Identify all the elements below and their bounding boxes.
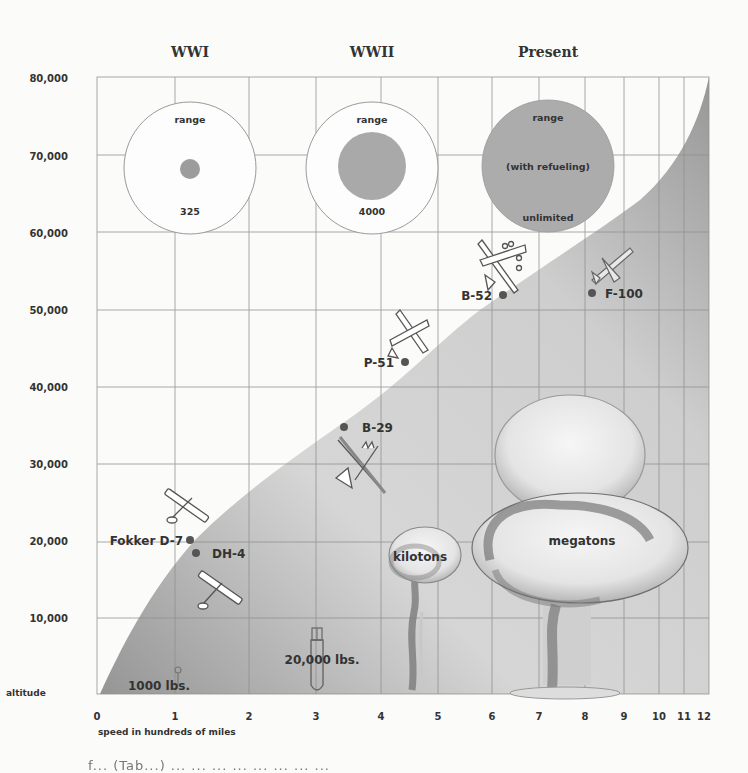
point-f100: [588, 289, 596, 297]
range-circle-present: range (with refueling) unlimited: [482, 100, 614, 232]
label-b52: B-52: [461, 289, 492, 303]
range-label-wwi: range: [174, 114, 205, 125]
point-fokker-d7: [186, 536, 194, 544]
kilotons-label: kilotons: [393, 550, 447, 564]
biplane-fokker-icon: [164, 488, 209, 523]
label-f100: F-100: [605, 287, 643, 301]
megatons-label: megatons: [549, 534, 616, 548]
point-p51: [401, 358, 409, 366]
bomb-1000-label: 1000 lbs.: [128, 679, 190, 693]
range-circle-wwii: range 4000: [306, 102, 438, 234]
range-value-wwii: 4000: [359, 206, 386, 217]
range-label-wwii: range: [356, 114, 387, 125]
point-b52: [499, 291, 507, 299]
range-label-present: range: [532, 112, 563, 123]
label-dh4: DH-4: [212, 547, 245, 561]
range-note-present: (with refueling): [506, 161, 590, 172]
fighter-p51-icon: [388, 310, 429, 358]
point-dh4: [192, 549, 200, 557]
label-b29: B-29: [362, 421, 393, 435]
bomb-20000-label: 20,000 lbs.: [285, 653, 360, 667]
label-p51: P-51: [364, 356, 394, 370]
label-fokker-d7: Fokker D-7: [110, 534, 183, 548]
range-dot-wwi: [180, 159, 200, 179]
range-value-present: unlimited: [523, 212, 574, 223]
point-b29: [340, 423, 348, 431]
range-value-wwi: 325: [180, 206, 200, 217]
figure-caption: f... (Tab...) ... ... ... ... ... ... ..…: [88, 758, 330, 773]
range-dot-wwii: [338, 132, 406, 200]
range-circle-wwi: range 325: [124, 102, 256, 234]
